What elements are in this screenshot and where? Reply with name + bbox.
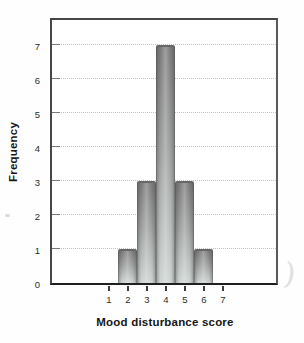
y-tick-mark-4 xyxy=(52,146,60,147)
speck-artifact xyxy=(5,214,10,217)
bar-score-5 xyxy=(175,181,194,283)
y-tick-mark-2 xyxy=(52,214,60,215)
y-tick-mark-7 xyxy=(52,44,60,45)
x-axis-title: Mood disturbance score xyxy=(65,316,265,328)
y-axis-title: Frequency xyxy=(7,82,21,222)
x-tick-label-3: 3 xyxy=(139,294,155,305)
x-tick-mark-4 xyxy=(165,286,167,291)
histogram-figure: 01234567 1234567 Frequency Mood disturba… xyxy=(0,0,304,343)
scan-mark-artifact: ) xyxy=(282,255,298,291)
x-tick-label-1: 1 xyxy=(101,294,117,305)
x-tick-label-5: 5 xyxy=(177,294,193,305)
y-tick-mark-3 xyxy=(52,180,60,181)
bar-score-6 xyxy=(194,249,213,283)
plot-area xyxy=(50,18,278,285)
bar-score-2 xyxy=(118,249,137,283)
x-tick-label-7: 7 xyxy=(215,294,231,305)
y-tick-mark-1 xyxy=(52,248,60,249)
x-tick-label-2: 2 xyxy=(120,294,136,305)
x-tick-mark-5 xyxy=(184,286,186,291)
x-tick-mark-7 xyxy=(222,286,224,291)
x-tick-mark-6 xyxy=(203,286,205,291)
x-tick-mark-2 xyxy=(127,286,129,291)
y-tick-mark-5 xyxy=(52,112,60,113)
y-tick-label-1: 1 xyxy=(8,245,40,257)
y-tick-label-0: 0 xyxy=(8,279,40,291)
x-tick-mark-1 xyxy=(108,286,110,291)
y-tick-label-7: 7 xyxy=(8,41,40,53)
y-tick-mark-6 xyxy=(52,78,60,79)
x-tick-label-6: 6 xyxy=(196,294,212,305)
x-tick-label-4: 4 xyxy=(158,294,174,305)
bar-score-4 xyxy=(156,45,175,283)
bar-score-3 xyxy=(137,181,156,283)
x-tick-mark-3 xyxy=(146,286,148,291)
